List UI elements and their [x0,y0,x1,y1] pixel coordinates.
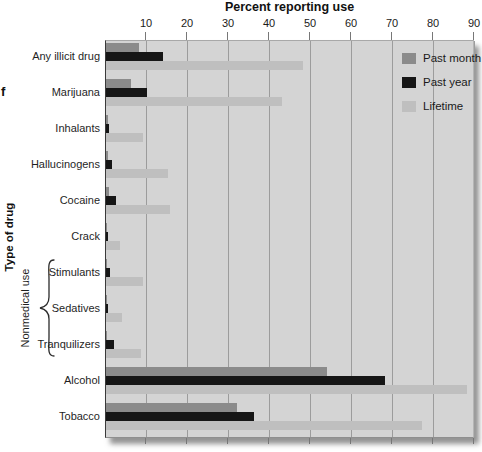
x-tick-label-20: 20 [181,17,193,29]
legend-swatch-lifetime [402,101,416,112]
category-label-cocaine: Cocaine [0,194,100,207]
legend-item-lifetime: Lifetime [402,94,481,118]
category-label-hallucinogens: Hallucinogens [0,158,100,171]
x-tick-mark-top-70 [391,32,392,40]
x-tick-mark-bottom-40 [268,438,269,444]
legend-item-past-year: Past year [402,70,481,94]
bar-past-month-hallucinogens [106,151,108,160]
bar-past-month-tobacco [106,403,237,412]
bar-past-month-inhalants [106,115,108,124]
x-tick-label-90: 90 [468,17,480,29]
x-tick-mark-top-40 [268,32,269,40]
x-tick-mark-bottom-80 [432,438,433,444]
bar-past-month-any-illicit-drug [106,43,139,52]
category-label-any-illicit-drug: Any illicit drug [0,50,100,63]
bar-past-month-tranquilizers [106,331,107,340]
x-tick-label-60: 60 [345,17,357,29]
legend-item-past-month: Past month [402,46,481,70]
bar-lifetime-tobacco [106,421,422,430]
bar-past-month-sedatives [106,295,107,304]
x-tick-mark-top-80 [432,32,433,40]
bar-past-year-inhalants [106,124,109,133]
x-tick-label-40: 40 [263,17,275,29]
gridline-70 [392,41,393,437]
bar-lifetime-crack [106,241,120,250]
bar-past-month-crack [106,223,107,232]
chart-title: Percent reporting use [105,0,474,14]
x-tick-mark-bottom-30 [227,438,228,444]
bar-past-year-stimulants [106,268,110,277]
bar-lifetime-sedatives [106,313,122,322]
x-tick-label-30: 30 [222,17,234,29]
bar-past-year-any-illicit-drug [106,52,163,61]
legend-swatch-past-month [402,53,416,64]
x-tick-label-10: 10 [140,17,152,29]
bar-past-year-marijuana [106,88,147,97]
bar-past-year-sedatives [106,304,108,313]
category-label-crack: Crack [0,230,100,243]
category-label-tobacco: Tobacco [0,410,100,423]
category-label-marijuana: Marijuana [0,86,100,99]
category-label-stimulants: Stimulants [0,266,100,279]
bar-past-year-tobacco [106,412,254,421]
x-tick-mark-top-60 [350,32,351,40]
bar-lifetime-tranquilizers [106,349,141,358]
category-label-sedatives: Sedatives [0,302,100,315]
x-tick-label-80: 80 [427,17,439,29]
x-tick-mark-top-10 [145,32,146,40]
x-tick-mark-bottom-50 [309,438,310,444]
x-tick-mark-top-50 [309,32,310,40]
x-tick-label-50: 50 [304,17,316,29]
bar-lifetime-inhalants [106,133,143,142]
legend-label-past-year: Past year [423,76,472,88]
x-tick-mark-bottom-90 [473,438,474,444]
x-tick-mark-top-30 [227,32,228,40]
bar-past-year-cocaine [106,196,116,205]
bar-past-month-stimulants [106,259,107,268]
x-tick-mark-bottom-10 [145,438,146,444]
x-tick-mark-top-20 [186,32,187,40]
x-tick-mark-top-90 [473,32,474,40]
bar-lifetime-cocaine [106,205,170,214]
legend: Past monthPast yearLifetime [402,46,481,118]
figure: f Percent reporting use Type of drug Non… [0,0,482,452]
legend-label-past-month: Past month [423,52,481,64]
bar-past-year-crack [106,232,108,241]
x-tick-mark-bottom-20 [186,438,187,444]
bar-past-year-hallucinogens [106,160,112,169]
bar-lifetime-stimulants [106,277,143,286]
x-tick-mark-bottom-60 [350,438,351,444]
legend-label-lifetime: Lifetime [423,100,463,112]
bar-lifetime-alcohol [106,385,467,394]
legend-swatch-past-year [402,77,416,88]
bar-past-month-cocaine [106,187,109,196]
bar-past-year-tranquilizers [106,340,114,349]
bar-lifetime-marijuana [106,97,282,106]
category-label-tranquilizers: Tranquilizers [0,338,100,351]
bar-past-month-alcohol [106,367,327,376]
bar-lifetime-hallucinogens [106,169,168,178]
x-tick-label-70: 70 [386,17,398,29]
x-tick-mark-bottom-70 [391,438,392,444]
bar-past-month-marijuana [106,79,131,88]
category-label-alcohol: Alcohol [0,374,100,387]
bar-lifetime-any-illicit-drug [106,61,303,70]
bar-past-year-alcohol [106,376,385,385]
category-label-inhalants: Inhalants [0,122,100,135]
